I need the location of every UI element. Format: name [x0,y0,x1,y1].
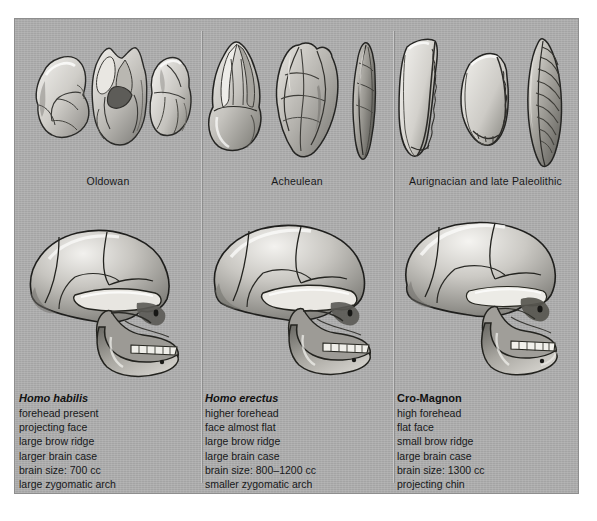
pointed-handaxe-icon [209,42,261,151]
list-item: higher forehead [205,406,389,420]
list-item: large brain case [205,449,389,463]
homo-habilis-skull-icon [15,215,201,383]
curved-blade-icon [399,39,437,156]
flaked-core-tool-icon [92,48,147,145]
column-aurignacian-cro-magnon: Aurignacian and late Paleolithic [393,19,578,493]
column-acheulean-homo-erectus: Acheulean [201,19,393,493]
column-oldowan-homo-habilis: Oldowan [15,19,201,493]
list-item: larger brain case [19,449,197,463]
oldowan-tool-group [15,25,201,175]
list-item: large zygomatic arch [19,477,197,491]
trait-list-homo-habilis: forehead present projecting face large b… [19,406,197,491]
pebble-chopper-tool-icon [150,58,191,136]
chopper-core-tool-icon [36,57,89,138]
species-title-cro-magnon: Cro-Magnon [397,391,574,405]
list-item: small brow ridge [397,434,574,448]
acheulean-tool-group [201,25,393,175]
trait-list-cro-magnon: high forehead flat face small brow ridge… [397,406,574,491]
list-item: flat face [397,420,574,434]
list-item: brain size: 1300 cc [397,463,574,477]
list-item: forehead present [19,406,197,420]
list-item: projecting chin [397,477,574,491]
caption-homo-erectus: Homo erectus higher forehead face almost… [201,391,393,491]
species-title-homo-habilis: Homo habilis [19,391,197,405]
list-item: projecting face [19,420,197,434]
homo-erectus-skull-icon [201,215,393,383]
tool-culture-label-acheulean: Acheulean [201,175,393,187]
list-item: high forehead [397,406,574,420]
caption-cro-magnon: Cro-Magnon high forehead flat face small… [393,391,578,491]
aurignacian-tool-group [393,25,578,175]
list-item: large brow ridge [205,434,389,448]
cro-magnon-skull-icon [393,215,578,383]
tool-culture-label-oldowan: Oldowan [15,175,201,187]
list-item: large brain case [397,449,574,463]
trait-list-homo-erectus: higher forehead face almost flat large b… [205,406,389,491]
broad-flake-blade-icon [461,53,508,145]
species-title-homo-erectus: Homo erectus [205,391,389,405]
list-item: brain size: 800–1200 cc [205,463,389,477]
laurel-leaf-point-icon [528,39,562,167]
oval-handaxe-icon [276,43,337,157]
tool-culture-label-aurignacian: Aurignacian and late Paleolithic [393,175,578,187]
hominid-tools-and-skulls-figure: Oldowan [15,19,578,493]
list-item: brain size: 700 cc [19,463,197,477]
caption-homo-habilis: Homo habilis forehead present projecting… [15,391,201,491]
list-item: face almost flat [205,420,389,434]
list-item: smaller zygomatic arch [205,477,389,491]
slender-pick-icon [353,43,375,160]
list-item: large brow ridge [19,434,197,448]
